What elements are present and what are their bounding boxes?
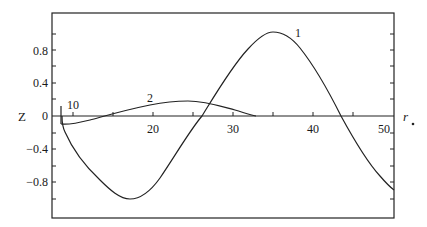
curve-1-label: 1 [295, 26, 301, 40]
x-tick-label: 50 [378, 122, 390, 136]
y-axis-label: Z [18, 109, 26, 124]
y-tick-label: −0.4 [26, 142, 48, 156]
y-tick-label: 0 [42, 109, 48, 123]
chart: 0.8 0.4 0 −0.4 −0.8 Z 10 20 30 40 50 r 1… [0, 0, 427, 227]
x-tick-label: 10 [67, 98, 79, 112]
x-tick-label: 20 [147, 122, 159, 136]
x-axis-subscript-star [412, 123, 415, 126]
x-tick-label: 40 [307, 122, 319, 136]
y-tick-label: 0.4 [33, 76, 48, 90]
x-tick-label: 30 [227, 122, 239, 136]
y-tick-label: 0.8 [33, 44, 48, 58]
x-axis-label: r [403, 109, 409, 124]
y-tick-label: −0.8 [26, 175, 48, 189]
curve-2-label: 2 [147, 91, 153, 105]
curve-2 [61, 101, 256, 124]
